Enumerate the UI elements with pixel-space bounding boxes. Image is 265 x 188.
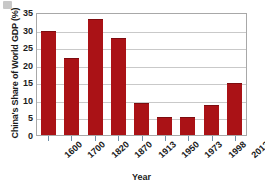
bar-2012 [227, 83, 242, 135]
x-tick-label: 1998 [227, 140, 248, 160]
y-tick-label: 35 [14, 9, 33, 18]
bar-1998 [204, 105, 219, 135]
x-tick-label: 1870 [133, 140, 154, 160]
x-axis-tick-labels: 160017001820187019131950197319982012 [36, 140, 247, 168]
bars-container [37, 14, 246, 135]
bar-1820 [88, 19, 103, 135]
y-tick-label: 5 [14, 114, 33, 123]
bar-1600 [41, 31, 56, 135]
bar-chart-figure: China's Share of World GDP (%) 051015202… [0, 0, 265, 188]
y-tick-label: 30 [14, 26, 33, 35]
y-tick-label: 15 [14, 79, 33, 88]
x-tick-label: 1820 [110, 140, 131, 160]
x-tick-label: 1913 [157, 140, 178, 160]
y-tick-label: 25 [14, 44, 33, 53]
x-tick-label: 2012 [250, 140, 265, 160]
y-axis-tick-labels: 05101520253035 [14, 13, 33, 136]
x-tick-label: 1973 [204, 140, 225, 160]
x-axis-title: Year [36, 172, 247, 182]
y-tick-label: 0 [14, 132, 33, 141]
bar-1973 [180, 117, 195, 135]
bar-1700 [64, 58, 79, 135]
y-tick-label: 20 [14, 61, 33, 70]
bar-1870 [111, 38, 126, 135]
x-tick-label: 1700 [86, 140, 107, 160]
y-tick-label: 10 [14, 96, 33, 105]
plot-area [36, 13, 247, 136]
x-tick-label: 1600 [63, 140, 84, 160]
bar-1913 [134, 103, 149, 135]
x-tick-label: 1950 [180, 140, 201, 160]
bar-1950 [157, 117, 172, 135]
